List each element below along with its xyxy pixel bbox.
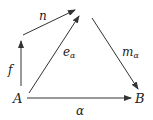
- node-label-a: A: [12, 91, 22, 106]
- node-label-b: B: [134, 91, 145, 106]
- edge-label-n: n: [39, 9, 47, 23]
- m-main: m: [122, 45, 133, 59]
- e-main: e: [63, 45, 70, 59]
- diagram-canvas: A B f n eα mα α: [0, 0, 153, 120]
- m-sub: α: [133, 51, 139, 60]
- edge-label-f: f: [7, 63, 15, 77]
- edge-label-e-alpha: eα: [63, 45, 76, 60]
- edge-label-m-alpha: mα: [122, 45, 139, 60]
- edge-label-alpha: α: [76, 104, 84, 118]
- arrow-n: [23, 10, 75, 35]
- e-sub: α: [70, 51, 76, 60]
